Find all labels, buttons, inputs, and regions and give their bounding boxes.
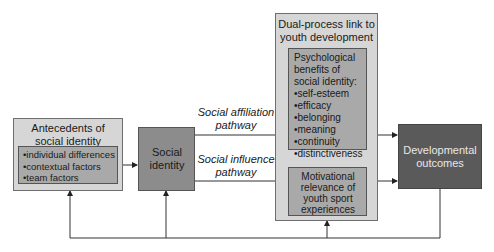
antecedent-item: contextual factors: [23, 161, 117, 173]
antecedent-item: team factors: [23, 172, 117, 184]
benefits-title: Psychological benefits of social identit…: [294, 52, 366, 88]
antecedents-box: Antecedents of social identity individua…: [13, 118, 123, 191]
developmental-outcomes-label: Developmental outcomes: [401, 144, 479, 170]
psychological-benefits-box: Psychological benefits of social identit…: [288, 48, 367, 150]
motivational-relevance-box: Motivational relevance of youth sport ex…: [288, 167, 367, 216]
benefit-item: efficacy: [294, 100, 366, 112]
dual-process-box: Dual-process link to youth development P…: [275, 13, 378, 221]
antecedents-list: individual differences contextual factor…: [23, 149, 117, 184]
benefit-item: continuity: [294, 136, 366, 148]
developmental-outcomes-box: Developmental outcomes: [398, 124, 482, 189]
antecedents-list-box: individual differences contextual factor…: [18, 146, 118, 184]
benefit-item: distinctiveness: [294, 148, 366, 160]
social-identity-label: Social identity: [145, 146, 189, 172]
benefits-list: self-esteem efficacy belonging meaning c…: [294, 88, 366, 160]
antecedent-item: individual differences: [23, 149, 117, 161]
antecedents-title: Antecedents of social identity: [18, 122, 118, 148]
social-identity-box: Social identity: [138, 127, 195, 191]
dual-process-title: Dual-process link to youth development: [278, 18, 375, 44]
benefit-item: meaning: [294, 124, 366, 136]
motivational-relevance-label: Motivational relevance of youth sport ex…: [292, 171, 364, 215]
benefit-item: self-esteem: [294, 88, 366, 100]
benefit-item: belonging: [294, 112, 366, 124]
affiliation-pathway-label: Social affiliation pathway: [196, 106, 276, 132]
influence-pathway-label: Social influence pathway: [196, 153, 276, 179]
